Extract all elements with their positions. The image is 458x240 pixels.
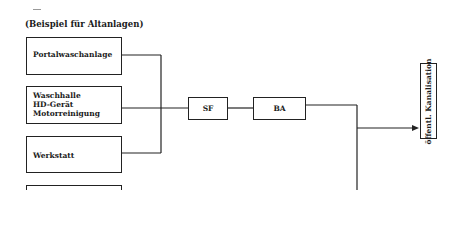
source-label: Werkstatt	[33, 151, 74, 160]
source-box-partial	[26, 185, 122, 190]
ba-label: BA	[273, 104, 285, 113]
source-box-waschhalle: Waschhalle HD-Gerät Motorreinigung	[26, 86, 122, 124]
arrowhead-icon	[412, 125, 419, 131]
source-label: Portalwaschanlage	[33, 50, 112, 59]
sf-label: SF	[203, 104, 214, 113]
source-box-werkstatt: Werkstatt	[26, 136, 122, 173]
source-label: Waschhalle HD-Gerät Motorreinigung	[33, 91, 100, 118]
process-box-sf: SF	[188, 97, 228, 120]
process-box-ba: BA	[253, 97, 306, 120]
destination-box-kanalisation: öffentl. Kanalisation	[420, 63, 437, 139]
destination-label: öffentl. Kanalisation	[424, 58, 433, 144]
source-box-portalwaschanlage: Portalwaschanlage	[26, 37, 122, 75]
